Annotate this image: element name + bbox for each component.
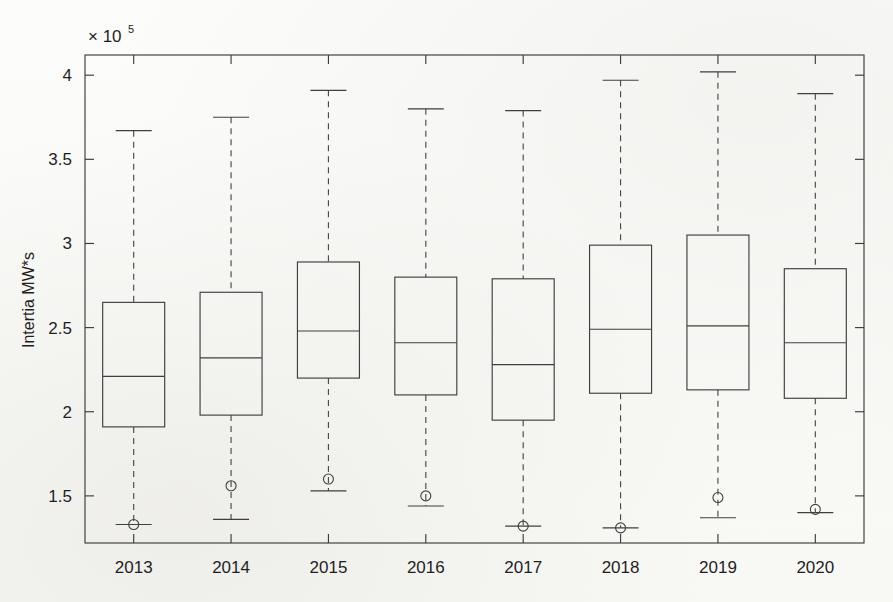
box-series — [103, 72, 847, 533]
box-plot-2016 — [395, 109, 457, 506]
y-axis-ticks: 1.522.533.54 — [48, 66, 864, 506]
y-axis-label: Intertia MW*s — [20, 252, 37, 348]
box-plot-2017 — [492, 111, 554, 532]
quartile-box — [200, 292, 262, 415]
y-tick-label: 4 — [63, 66, 72, 85]
y-axis-exponent-power: 5 — [128, 23, 134, 35]
y-tick-label: 1.5 — [48, 487, 72, 506]
box-plot-2019 — [687, 72, 749, 518]
quartile-box — [395, 277, 457, 395]
y-tick-label: 3.5 — [48, 150, 72, 169]
x-tick-label: 2015 — [310, 558, 348, 577]
plot-frame — [85, 55, 864, 543]
quartile-box — [492, 279, 554, 420]
box-plot-2020 — [784, 94, 846, 515]
y-axis-label-text: Intertia MW*s — [20, 252, 37, 348]
quartile-box — [687, 235, 749, 390]
y-tick-label: 2.5 — [48, 319, 72, 338]
x-tick-label: 2020 — [796, 558, 834, 577]
y-axis-exponent-base: × 10 — [88, 27, 122, 46]
quartile-box — [590, 245, 652, 393]
boxplot-figure: × 10 5 Intertia MW*s 1.522.533.54 201320… — [0, 0, 893, 602]
x-tick-label: 2014 — [212, 558, 250, 577]
plot-border — [85, 55, 864, 543]
box-plot-2015 — [297, 90, 359, 490]
quartile-box — [784, 269, 846, 399]
x-tick-label: 2016 — [407, 558, 445, 577]
box-plot-2014 — [200, 117, 262, 519]
x-tick-label: 2019 — [699, 558, 737, 577]
quartile-box — [103, 302, 165, 427]
x-axis-ticks: 20132014201520162017201820192020 — [115, 55, 834, 577]
y-tick-label: 2 — [63, 403, 72, 422]
y-tick-label: 3 — [63, 234, 72, 253]
quartile-box — [297, 262, 359, 378]
boxplot-canvas: × 10 5 Intertia MW*s 1.522.533.54 201320… — [0, 0, 893, 602]
y-axis-exponent: × 10 5 — [88, 23, 134, 46]
box-plot-2018 — [590, 80, 652, 533]
x-tick-label: 2018 — [602, 558, 640, 577]
box-plot-2013 — [103, 131, 165, 530]
x-tick-label: 2013 — [115, 558, 153, 577]
x-tick-label: 2017 — [504, 558, 542, 577]
